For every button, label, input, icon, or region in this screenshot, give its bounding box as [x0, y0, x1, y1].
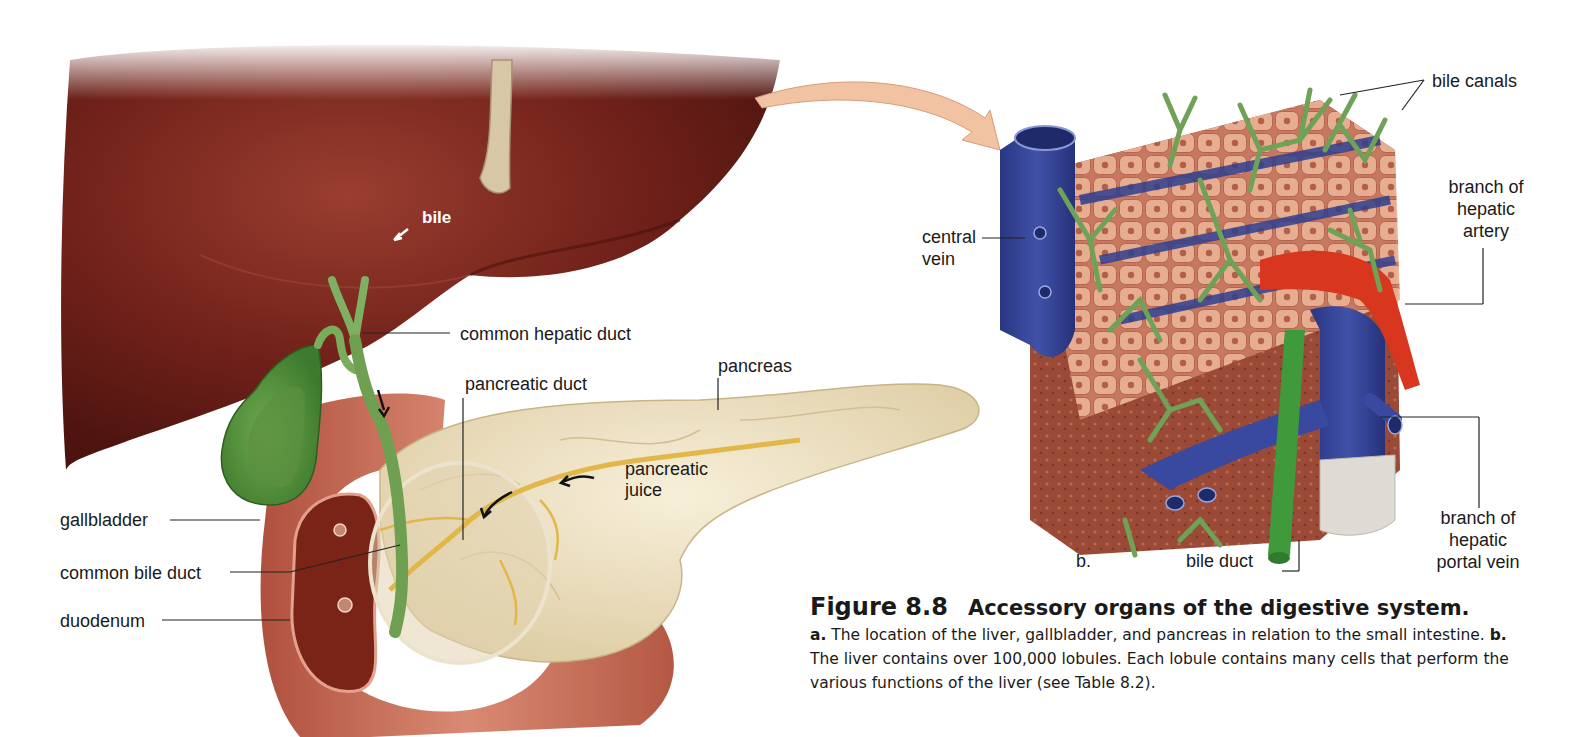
- label-pancreatic-juice-line2: juice: [625, 479, 662, 501]
- caption-part-a-text: The location of the liver, gallbladder, …: [826, 626, 1489, 644]
- caption-title-row: Figure 8.8Accessory organs of the digest…: [810, 592, 1510, 623]
- figure-number: Figure 8.8: [810, 593, 948, 621]
- label-common-hepatic-duct: common hepatic duct: [460, 323, 631, 345]
- caption-part-b-marker: b.: [1490, 626, 1507, 644]
- label-hepatic-artery-line2: hepatic: [1436, 198, 1536, 220]
- figure-stage: bile common hepatic duct pancreas pancre…: [0, 0, 1594, 737]
- label-portal-vein-line1: branch of: [1418, 507, 1538, 529]
- label-bile-duct: bile duct: [1186, 550, 1253, 572]
- label-central-vein-line1: central: [922, 226, 976, 248]
- figure-caption: Figure 8.8Accessory organs of the digest…: [810, 592, 1510, 695]
- label-common-bile-duct: common bile duct: [60, 562, 201, 584]
- label-bile: bile: [422, 207, 451, 229]
- label-gallbladder: gallbladder: [60, 509, 148, 531]
- caption-part-a-marker: a.: [810, 626, 826, 644]
- label-portal-vein-line2: hepatic: [1418, 529, 1538, 551]
- panel-b-marker: b.: [1076, 550, 1091, 572]
- label-central-vein-line2: vein: [922, 248, 976, 270]
- label-central-vein: central vein: [922, 226, 976, 270]
- caption-part-b-text: The liver contains over 100,000 lobules.…: [810, 650, 1509, 692]
- label-hepatic-artery-line3: artery: [1436, 220, 1536, 242]
- label-pancreatic-juice-line1: pancreatic: [625, 458, 708, 480]
- label-bile-canals: bile canals: [1432, 70, 1517, 92]
- liver-lobule: [1000, 90, 1420, 564]
- caption-body: a. The location of the liver, gallbladde…: [810, 623, 1510, 695]
- label-portal-vein-line3: portal vein: [1418, 551, 1538, 573]
- figure-title: Accessory organs of the digestive system…: [968, 596, 1470, 620]
- label-hepatic-artery-line1: branch of: [1436, 176, 1536, 198]
- label-branch-of-hepatic-portal-vein: branch of hepatic portal vein: [1418, 507, 1538, 573]
- zoom-arrow: [755, 82, 1000, 150]
- label-pancreatic-duct: pancreatic duct: [465, 373, 587, 395]
- label-duodenum: duodenum: [60, 610, 145, 632]
- label-pancreas: pancreas: [718, 355, 792, 377]
- label-branch-of-hepatic-artery: branch of hepatic artery: [1436, 176, 1536, 242]
